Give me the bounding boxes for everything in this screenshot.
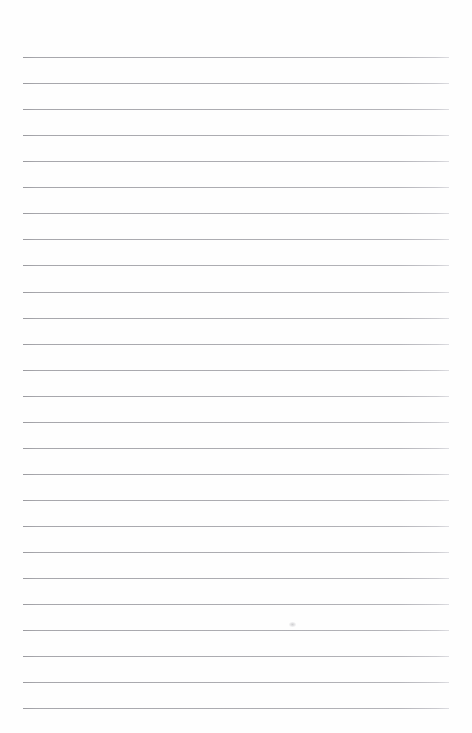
ruled-lines-area [0, 0, 472, 733]
rule-line [23, 344, 449, 345]
rule-line [23, 109, 449, 110]
rule-line [23, 370, 449, 371]
rule-line [23, 448, 449, 449]
rule-line [23, 500, 449, 501]
rule-line [23, 552, 449, 553]
rule-line [23, 213, 449, 214]
rule-line [23, 630, 449, 631]
smudge-mark [289, 622, 296, 627]
rule-line [23, 682, 449, 683]
rule-line [23, 422, 449, 423]
rule-line [23, 83, 449, 84]
rule-line [23, 604, 449, 605]
rule-line [23, 57, 449, 58]
rule-line [23, 135, 449, 136]
rule-line [23, 292, 449, 293]
rule-line [23, 187, 449, 188]
rule-line [23, 161, 449, 162]
notebook-page [0, 0, 472, 733]
rule-line [23, 265, 449, 266]
bottom-margin [0, 708, 472, 733]
rule-line [23, 578, 449, 579]
rule-line [23, 318, 449, 319]
rule-line [23, 396, 449, 397]
rule-line [23, 474, 449, 475]
rule-line [23, 239, 449, 240]
rule-line [23, 526, 449, 527]
rule-line [23, 656, 449, 657]
